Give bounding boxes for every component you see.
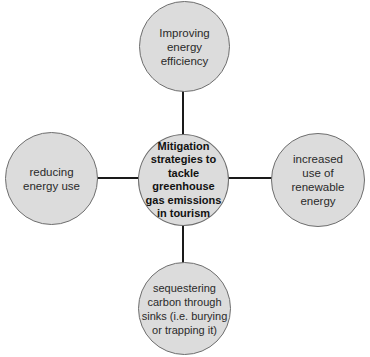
connector-left xyxy=(96,177,139,179)
node-sequestering-carbon: sequestering carbon through sinks (i.e. … xyxy=(138,262,231,355)
node-label: increased use of renewable energy xyxy=(272,152,364,208)
connector-bottom xyxy=(182,225,184,263)
node-label: sequestering carbon through sinks (i.e. … xyxy=(139,281,230,337)
node-renewable-energy: increased use of renewable energy xyxy=(271,133,365,227)
node-label: reducing energy use xyxy=(6,165,97,193)
mitigation-strategies-diagram: Improving energy efficiency reducing ene… xyxy=(0,0,370,357)
node-central-topic: Mitigation strategies to tackle greenhou… xyxy=(138,134,229,226)
node-improving-energy-efficiency: Improving energy efficiency xyxy=(139,1,230,92)
node-reducing-energy-use: reducing energy use xyxy=(5,132,98,225)
node-label: Improving energy efficiency xyxy=(140,26,229,68)
connector-right xyxy=(227,177,272,179)
connector-top xyxy=(182,90,184,135)
central-topic-label: Mitigation strategies to tackle greenhou… xyxy=(139,140,228,221)
